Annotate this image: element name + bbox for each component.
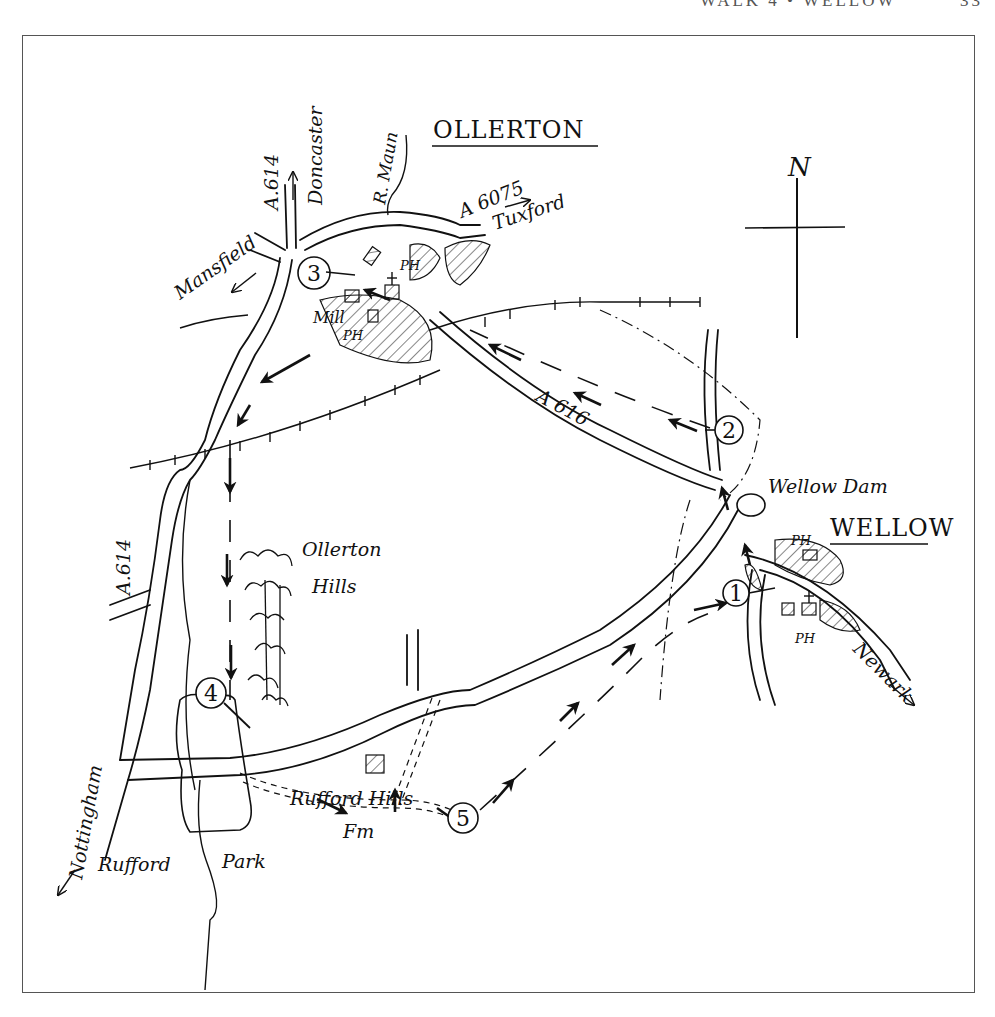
wellow-dam <box>737 494 765 516</box>
built-up-areas <box>320 241 860 632</box>
roads <box>105 185 910 860</box>
waypoint-4: 4 <box>196 678 226 708</box>
svg-text:5: 5 <box>456 806 470 831</box>
label-ollerton-hills-1: Ollerton <box>302 538 381 560</box>
label-a616: A 616 <box>531 383 593 430</box>
label-newark: Newark <box>848 637 918 707</box>
label-ollerton-hills-2: Hills <box>311 575 357 597</box>
walk-map: N <box>0 0 995 1017</box>
label-a614-south: A.614 <box>112 539 134 597</box>
stream <box>180 315 248 328</box>
label-rufford-hills-2: Fm <box>342 820 374 842</box>
label-park: Park <box>221 850 266 872</box>
label-ph-wellow-1: PH <box>790 533 812 548</box>
rufford-lake <box>176 694 251 832</box>
svg-text:1: 1 <box>729 581 743 606</box>
label-mill: Mill <box>312 308 345 327</box>
label-rufford: Rufford <box>97 853 171 875</box>
waypoint-3: 3 <box>298 257 330 289</box>
svg-text:4: 4 <box>204 681 218 706</box>
walk-route <box>230 330 720 810</box>
label-ph-ollerton-2: PH <box>342 328 364 343</box>
label-rufford-hills-1: Rufford Hills <box>289 787 414 809</box>
waypoint-5: 5 <box>448 803 478 833</box>
town-wellow: WELLOW <box>830 514 954 542</box>
north-label: N <box>787 152 812 182</box>
svg-text:2: 2 <box>722 418 736 443</box>
stream-rufford <box>198 780 216 990</box>
label-mansfield: Mansfield <box>169 231 260 304</box>
svg-text:3: 3 <box>307 261 321 286</box>
label-wellow-dam: Wellow Dam <box>768 475 888 497</box>
label-doncaster: Doncaster <box>304 104 326 206</box>
waypoint-1: 1 <box>723 580 749 606</box>
north-arrow-icon: N <box>745 152 845 338</box>
ollerton-hills-woods <box>240 550 292 706</box>
waypoint-2: 2 <box>715 416 743 444</box>
label-r-maun: R. Maun <box>369 130 402 206</box>
town-ollerton: OLLERTON <box>433 116 584 144</box>
stream-west <box>183 480 196 790</box>
label-ph-ollerton-1: PH <box>399 258 421 273</box>
label-a614-north: A.614 <box>260 154 282 212</box>
tracks <box>240 310 760 828</box>
label-ph-wellow-2: PH <box>794 631 816 646</box>
